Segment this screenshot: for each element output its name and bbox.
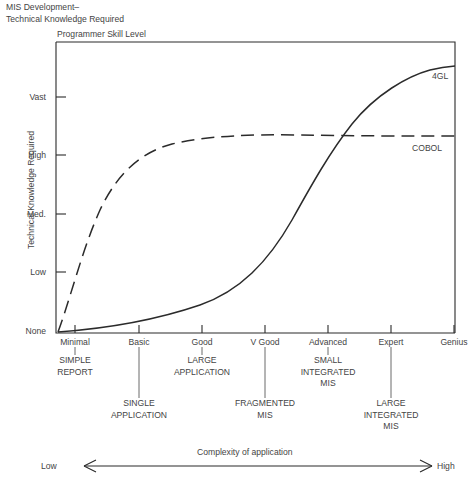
y-tick-marks	[56, 97, 66, 272]
annotation-large-integrated-mis: LARGE INTEGRATED MIS	[331, 398, 451, 433]
complexity-arrow	[84, 460, 432, 472]
series-line-4gl	[58, 66, 455, 332]
series-line-cobol	[58, 135, 455, 332]
complexity-low-label: Low	[41, 461, 57, 471]
annotation-single-application: SINGLE APPLICATION	[79, 398, 199, 421]
series-label-cobol: COBOL	[412, 143, 442, 153]
annotation-large-application: LARGE APPLICATION	[142, 355, 262, 378]
annotation-simple-report: SIMPLE REPORT	[15, 355, 135, 378]
annotation-fragmented-mis: FRAGMENTED MIS	[205, 398, 325, 421]
annotation-small-integrated-mis: SMALL INTEGRATED MIS	[268, 355, 388, 390]
complexity-high-label: High	[437, 461, 455, 471]
annotation-leaders-row1	[75, 347, 328, 355]
complexity-axis-label: Complexity of application	[197, 447, 293, 457]
series-label-4gl: 4GL	[432, 71, 448, 81]
x-tick-marks	[75, 325, 454, 333]
